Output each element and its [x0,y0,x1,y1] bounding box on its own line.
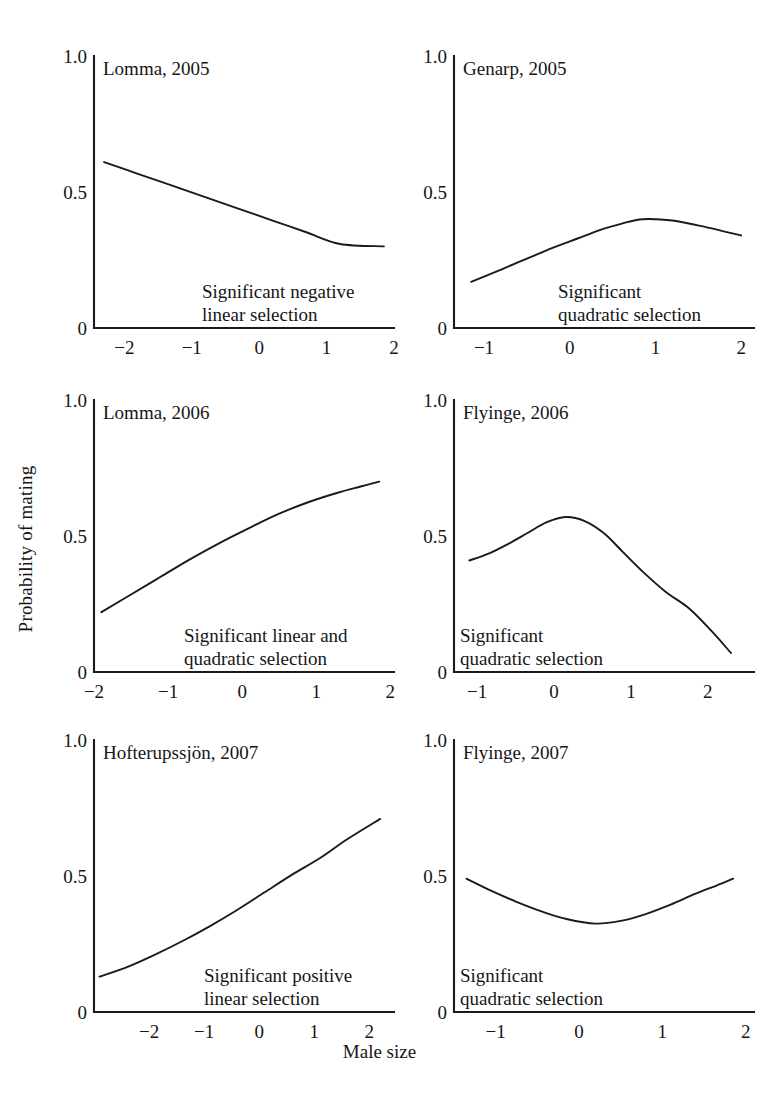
panel-flyinge-2006: 00.51.0−1012Flyinge, 2006Significantquad… [412,382,759,712]
x-tick-label: 0 [565,337,575,358]
y-tick-label: 0.5 [63,182,87,203]
x-tick-label: 2 [703,681,713,702]
x-tick-label: 0 [254,337,263,358]
y-tick-label: 0 [438,318,448,339]
panel-title: Lomma, 2005 [103,58,210,79]
x-tick-label: −2 [139,1021,159,1042]
y-axis-label: Probability of mating [6,0,46,1097]
y-tick-label: 0 [78,1002,88,1023]
data-curve [101,482,379,613]
x-tick-label: −2 [114,337,134,358]
data-curve [100,819,381,977]
x-axis-label: Male size [0,1041,759,1063]
x-tick-label: 1 [651,337,661,358]
y-tick-label: 1.0 [63,390,87,411]
y-tick-label: 0 [438,662,448,683]
x-tick-label: 0 [237,681,247,702]
x-tick-label: 0 [254,1021,264,1042]
panel-annotation-line: Significant [460,965,544,986]
panel-annotation-line: Significant [558,281,642,302]
panel-lomma-2005: 00.51.0−2−1012Lomma, 2005Significant neg… [52,38,412,368]
panel-hofterupssjon-2007: 00.51.0−2−1012Hofterupssjön, 2007Signifi… [52,722,412,1052]
y-tick-label: 1.0 [423,730,447,751]
panel-annotation-line: Significant linear and [184,625,348,646]
x-tick-label: 2 [389,337,399,358]
y-tick-label: 0.5 [423,182,447,203]
y-tick-label: 0.5 [423,866,447,887]
panel-lomma-2006: 00.51.0−2−1012Lomma, 2006Significant lin… [52,382,412,712]
y-tick-label: 0 [78,662,88,683]
panel-genarp-2005: 00.51.0−1012Genarp, 2005Significantquadr… [412,38,759,368]
x-tick-label: 2 [736,337,746,358]
panel-flyinge-2007: 00.51.0−1012Flyinge, 2007Significantquad… [412,722,759,1052]
x-tick-label: −1 [474,337,494,358]
x-tick-label: 0 [549,681,559,702]
y-axis-label-text: Probability of mating [15,465,37,632]
y-tick-label: 1.0 [423,390,447,411]
x-tick-label: −1 [194,1021,214,1042]
y-tick-label: 1.0 [63,730,87,751]
x-tick-label: 2 [364,1021,374,1042]
panel-annotation-line: Significant [460,625,544,646]
panel-annotation-line: Significant negative [202,281,354,302]
y-tick-label: 0.5 [423,526,447,547]
y-tick-label: 1.0 [423,46,447,67]
x-axis-label-text: Male size [343,1041,416,1062]
y-tick-label: 0.5 [63,526,87,547]
x-tick-label: −1 [158,681,178,702]
x-tick-label: 2 [386,681,396,702]
x-tick-label: −1 [486,1021,506,1042]
x-tick-label: −2 [84,681,104,702]
x-tick-label: 0 [574,1021,584,1042]
data-curve [104,162,384,246]
panel-annotation-line: quadratic selection [558,304,701,325]
y-tick-label: 0.5 [63,866,87,887]
y-tick-label: 1.0 [63,46,87,67]
x-tick-label: −1 [182,337,202,358]
panel-annotation-line: quadratic selection [184,648,327,669]
panel-annotation-line: quadratic selection [460,648,603,669]
panel-annotation-line: quadratic selection [460,988,603,1009]
y-tick-label: 0 [438,1002,448,1023]
panel-title: Hofterupssjön, 2007 [103,742,258,763]
panel-annotation-line: Significant positive [204,965,352,986]
x-tick-label: 1 [658,1021,668,1042]
x-tick-label: 2 [741,1021,751,1042]
x-tick-label: 1 [626,681,636,702]
figure-six-panel-mating-probability: Probability of mating 00.51.0−2−1012Lomm… [0,0,759,1097]
x-tick-label: −1 [467,681,487,702]
panel-title: Flyinge, 2006 [463,402,569,423]
x-tick-label: 1 [311,681,321,702]
panel-title: Genarp, 2005 [463,58,566,79]
panel-title: Flyinge, 2007 [463,742,569,763]
panel-title: Lomma, 2006 [103,402,210,423]
x-tick-label: 1 [309,1021,319,1042]
x-tick-label: 1 [322,337,332,358]
panel-annotation-line: linear selection [204,988,320,1009]
data-curve [471,219,741,282]
y-tick-label: 0 [78,318,88,339]
data-curve [467,879,734,924]
panel-annotation-line: linear selection [202,304,318,325]
